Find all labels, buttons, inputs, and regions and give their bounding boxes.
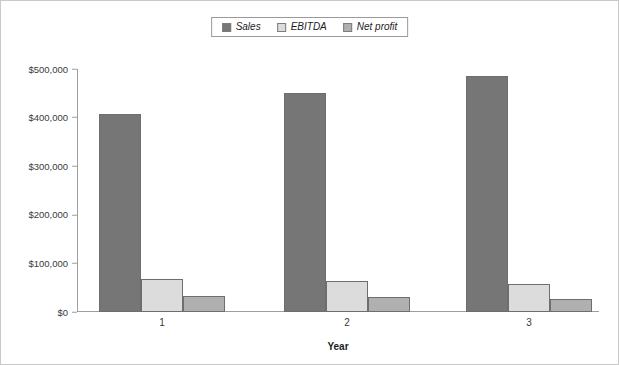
y-axis-tick-label: $400,000 xyxy=(28,113,72,123)
bar-chart-figure: SalesEBITDANet profit $0$100,000$200,000… xyxy=(0,0,619,365)
y-axis-tick-label: $300,000 xyxy=(28,161,72,171)
bar xyxy=(326,281,368,312)
y-axis-tick-label: $200,000 xyxy=(28,210,72,220)
bars-layer xyxy=(77,69,599,312)
legend-swatch-icon xyxy=(277,23,286,32)
legend-label: Net profit xyxy=(357,22,398,32)
x-axis-tick-label: 1 xyxy=(159,318,165,328)
legend-swatch-icon xyxy=(222,23,231,32)
x-axis-tick-label: 3 xyxy=(526,318,532,328)
y-axis-tick: $0 xyxy=(57,307,77,317)
y-axis-tick-label: $500,000 xyxy=(28,64,72,74)
y-axis-tick: $200,000 xyxy=(28,210,77,220)
legend-entry: EBITDA xyxy=(277,22,327,32)
chart-legend: SalesEBITDANet profit xyxy=(211,17,409,37)
bar xyxy=(284,93,326,312)
y-axis-tick: $300,000 xyxy=(28,161,77,171)
legend-entry: Net profit xyxy=(343,22,398,32)
legend-label: EBITDA xyxy=(291,22,327,32)
legend-entry: Sales xyxy=(222,22,261,32)
y-axis-tick-label: $100,000 xyxy=(28,259,72,269)
x-axis-title: Year xyxy=(327,341,348,352)
bar xyxy=(183,296,225,312)
y-axis-tick: $100,000 xyxy=(28,259,77,269)
legend-swatch-icon xyxy=(343,23,352,32)
legend-label: Sales xyxy=(236,22,261,32)
plot-area: $0$100,000$200,000$300,000$400,000$500,0… xyxy=(77,69,599,312)
bar xyxy=(368,297,410,312)
bar xyxy=(99,114,141,312)
y-axis-tick-label: $0 xyxy=(57,307,72,317)
x-axis-tick-label: 2 xyxy=(344,318,350,328)
bar xyxy=(466,76,508,312)
bar xyxy=(508,284,550,312)
bar xyxy=(550,299,592,312)
y-axis-tick: $500,000 xyxy=(28,64,77,74)
y-axis-tick: $400,000 xyxy=(28,113,77,123)
bar xyxy=(141,279,183,312)
